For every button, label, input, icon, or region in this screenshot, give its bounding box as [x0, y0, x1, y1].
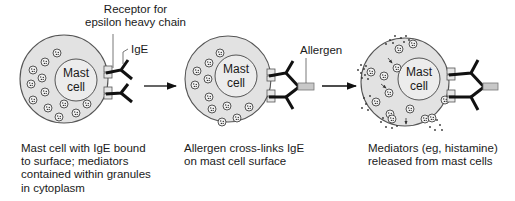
- panel-3-nucleus-label: Mast cell: [397, 65, 441, 93]
- receptor-label-line-2: epsilon heavy chain: [85, 16, 186, 29]
- caption-line: to surface; mediators: [21, 155, 151, 168]
- nucleus-line-2: cell: [397, 79, 441, 93]
- caption-line: contained within granules: [21, 168, 151, 181]
- caption-line: Mediators (eg, histamine): [368, 142, 498, 155]
- nucleus-line-2: cell: [54, 80, 98, 94]
- allergen: [483, 83, 498, 90]
- panel-1-nucleus-label: Mast cell: [54, 66, 98, 94]
- panel-1-caption: Mast cell with IgE bound to surface; med…: [21, 142, 151, 195]
- allergen: [298, 83, 314, 90]
- caption-line: Mast cell with IgE bound: [21, 142, 151, 155]
- allergen-label: Allergen: [300, 44, 342, 57]
- ige-antibodies: [449, 60, 484, 110]
- panel-2-caption: Allergen cross-links IgE on mast cell su…: [184, 142, 304, 168]
- caption-line: in cytoplasm: [21, 182, 151, 195]
- caption-line: released from mast cells: [368, 155, 498, 168]
- nucleus-line-1: Mast: [397, 65, 441, 79]
- nucleus-line-2: cell: [214, 76, 258, 90]
- panel-3-caption: Mediators (eg, histamine) released from …: [368, 142, 498, 168]
- diagram-canvas: Receptor for epsilon heavy chain IgE All…: [0, 0, 515, 201]
- ige-label: IgE: [131, 43, 148, 56]
- caption-line: Allergen cross-links IgE: [184, 142, 304, 155]
- panel-2-nucleus-label: Mast cell: [214, 62, 258, 90]
- receptor-label-line-1: Receptor for: [85, 3, 186, 16]
- nucleus-line-1: Mast: [214, 62, 258, 76]
- receptor-label: Receptor for epsilon heavy chain: [85, 3, 186, 29]
- caption-line: on mast cell surface: [184, 155, 304, 168]
- nucleus-line-1: Mast: [54, 66, 98, 80]
